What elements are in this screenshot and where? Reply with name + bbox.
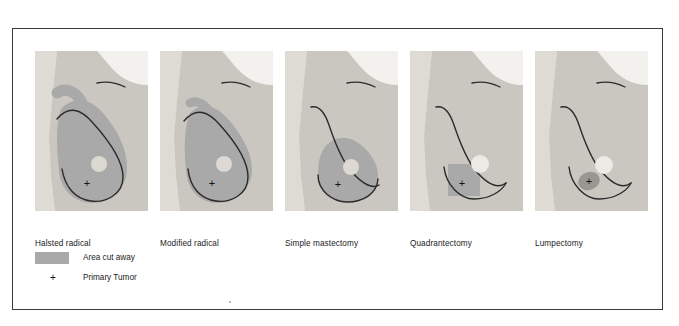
primary-tumor-marker: + xyxy=(335,178,341,190)
primary-tumor-marker: + xyxy=(586,175,592,187)
panel-modified-radical: + xyxy=(160,51,273,211)
scan-speck xyxy=(229,301,231,303)
modified-radical-illustration: + xyxy=(160,51,273,211)
figure-frame: + + xyxy=(12,28,663,310)
primary-tumor-marker: + xyxy=(84,177,90,189)
caption-modified-radical: Modified radical xyxy=(160,239,219,248)
halsted-radical-illustration: + xyxy=(35,51,148,211)
nipple-areola xyxy=(91,156,107,172)
quadrantectomy-illustration: + xyxy=(410,51,523,211)
legend-label-primary-tumor: Primary Tumor xyxy=(83,271,137,285)
caption-quadrantectomy: Quadrantectomy xyxy=(410,239,472,248)
nipple-areola xyxy=(343,159,359,175)
primary-tumor-marker: + xyxy=(459,177,465,189)
caption-lumpectomy: Lumpectomy xyxy=(535,239,583,248)
lumpectomy-illustration: + xyxy=(535,51,648,211)
nipple-areola xyxy=(216,156,232,172)
panel-quadrantectomy: + xyxy=(410,51,523,211)
primary-tumor-marker: + xyxy=(209,177,215,189)
legend-label-area-cut-away: Area cut away xyxy=(83,251,135,265)
panel-lumpectomy: + xyxy=(535,51,648,211)
nipple-areola xyxy=(471,155,489,173)
caption-halsted-radical: Halsted radical xyxy=(35,239,91,248)
cut-away-swatch xyxy=(35,252,69,264)
plus-icon: + xyxy=(47,271,59,285)
panel-halsted-radical: + xyxy=(35,51,148,211)
nipple-areola xyxy=(595,156,613,174)
simple-mastectomy-illustration: + xyxy=(285,51,398,211)
panel-simple-mastectomy: + xyxy=(285,51,398,211)
caption-simple-mastectomy: Simple mastectomy xyxy=(285,239,358,248)
